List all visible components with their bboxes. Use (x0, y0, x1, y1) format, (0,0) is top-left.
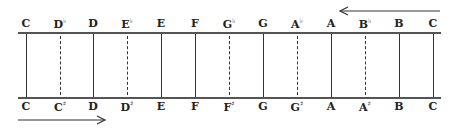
natural-note-line (263, 34, 264, 97)
top-note-label: D (88, 17, 98, 30)
bottom-note-label: A♯ (359, 100, 371, 114)
natural-note-line (161, 34, 162, 97)
top-note-label: E (157, 17, 165, 30)
top-note-label: A♭ (291, 17, 303, 31)
accidental-note-line (127, 36, 128, 95)
bottom-rule (18, 97, 441, 99)
chromatic-scale-diagram: CD♭DE♭EFG♭GA♭AB♭BC CC♯DD♯EFF♯GG♯AA♯BC (0, 0, 459, 132)
natural-note-line (195, 34, 196, 97)
bottom-note-label: D♯ (121, 100, 134, 114)
natural-note-line (399, 34, 400, 97)
natural-note-line (433, 34, 434, 97)
top-rule (18, 32, 441, 34)
top-note-label: G♭ (223, 17, 236, 31)
natural-note-line (331, 34, 332, 97)
bottom-note-label: F (191, 100, 199, 113)
accidental-note-line (229, 36, 230, 95)
bottom-note-label: A (327, 100, 336, 113)
bottom-note-label: C (429, 100, 438, 113)
top-note-label: C (22, 17, 31, 30)
top-note-label: B (394, 17, 403, 30)
bottom-note-label: E (157, 100, 165, 113)
bottom-note-label: G (258, 100, 267, 113)
top-note-label: C (429, 17, 438, 30)
bottom-note-label: C (22, 100, 31, 113)
natural-note-line (93, 34, 94, 97)
top-note-label: G (258, 17, 267, 30)
accidental-note-line (297, 36, 298, 95)
top-note-label: A (327, 17, 336, 30)
bottom-note-label: F♯ (223, 100, 234, 114)
top-note-label: B♭ (359, 17, 372, 31)
accidental-note-line (60, 36, 61, 95)
natural-note-line (26, 34, 27, 97)
accidental-note-line (365, 36, 366, 95)
top-note-label: F (191, 17, 199, 30)
bottom-note-label: D (88, 100, 98, 113)
top-note-label: D♭ (54, 17, 67, 31)
bottom-note-label: B (394, 100, 403, 113)
bottom-note-label: C♯ (54, 100, 66, 114)
top-note-label: E♭ (121, 17, 133, 31)
bottom-note-label: G♯ (291, 100, 304, 114)
